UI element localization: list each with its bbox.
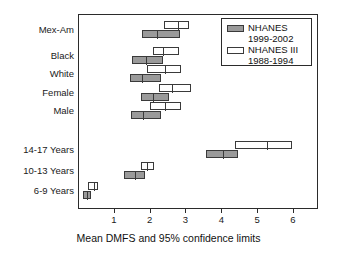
x-axis-tick xyxy=(257,209,258,213)
legend-sublabel-nhanes-iii: 1988-1994 xyxy=(248,56,293,66)
category-label: 6-9 Years xyxy=(34,186,74,196)
ci-mean-marker xyxy=(143,112,144,120)
ci-bar xyxy=(131,111,162,119)
x-axis-tick xyxy=(221,209,222,213)
ci-mean-marker xyxy=(223,151,224,159)
x-axis-tick-label: 2 xyxy=(140,214,160,225)
x-axis: 123456 xyxy=(78,209,318,229)
x-axis-tick-label: 3 xyxy=(175,214,195,225)
x-axis-tick xyxy=(150,209,151,213)
ci-bar xyxy=(147,65,181,73)
ci-bar xyxy=(141,93,170,101)
legend-label-nhanes-iii: NHANES III xyxy=(248,45,298,55)
x-axis-tick-label: 5 xyxy=(247,214,267,225)
chart-figure: Mex-AmBlackWhiteFemaleMale14-17 Years10-… xyxy=(0,0,337,255)
ci-mean-marker xyxy=(87,192,88,200)
ci-bar xyxy=(124,171,145,179)
legend-label-nhanes: NHANES xyxy=(248,23,288,33)
ci-bar xyxy=(159,84,191,92)
ci-mean-marker xyxy=(135,172,136,180)
legend-swatch-filled-icon xyxy=(227,25,244,32)
ci-mean-marker xyxy=(172,85,173,93)
ci-mean-marker xyxy=(165,103,166,111)
ci-bar xyxy=(132,56,163,64)
ci-bar xyxy=(164,21,189,29)
x-axis-tick-label: 4 xyxy=(211,214,231,225)
ci-bar xyxy=(141,162,153,170)
category-label: Black xyxy=(51,51,74,61)
x-axis-tick xyxy=(185,209,186,213)
ci-mean-marker xyxy=(163,48,164,56)
category-labels: Mex-AmBlackWhiteFemaleMale14-17 Years10-… xyxy=(0,14,74,209)
ci-mean-marker xyxy=(153,94,154,102)
ci-mean-marker xyxy=(146,57,147,65)
ci-mean-marker xyxy=(157,31,158,39)
chart-legend: NHANES 1999-2002 NHANES III 1988-1994 xyxy=(221,18,312,66)
category-label: Female xyxy=(42,88,74,98)
category-label: 10-13 Years xyxy=(23,166,74,176)
legend-item-nhanes: NHANES xyxy=(227,23,288,33)
x-axis-tick xyxy=(114,209,115,213)
legend-swatch-open-icon xyxy=(227,47,244,54)
ci-mean-marker xyxy=(147,163,148,171)
legend-sublabel-nhanes: 1999-2002 xyxy=(248,34,293,44)
ci-bar xyxy=(153,47,179,55)
x-axis-tick-label: 6 xyxy=(283,214,303,225)
category-label: Mex-Am xyxy=(39,25,74,35)
ci-mean-marker xyxy=(165,66,166,74)
category-label: Male xyxy=(53,106,74,116)
ci-bar xyxy=(150,102,182,110)
legend-item-nhanes-iii: NHANES III xyxy=(227,45,298,55)
ci-bar xyxy=(206,150,239,158)
category-label: White xyxy=(50,69,74,79)
ci-mean-marker xyxy=(142,75,143,83)
ci-bar xyxy=(83,191,91,199)
x-axis-title: Mean DMFS and 95% confidence limits xyxy=(0,232,337,244)
ci-mean-marker xyxy=(178,22,179,30)
ci-mean-marker xyxy=(94,183,95,191)
category-label: 14-17 Years xyxy=(23,145,74,155)
ci-bar xyxy=(88,182,98,190)
x-axis-tick-label: 1 xyxy=(104,214,124,225)
ci-mean-marker xyxy=(267,142,268,150)
ci-bar xyxy=(235,141,292,149)
x-axis-tick xyxy=(293,209,294,213)
ci-bar xyxy=(130,74,162,82)
ci-bar xyxy=(142,30,180,38)
